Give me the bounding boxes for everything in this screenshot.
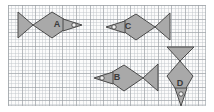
fish-d-label: D xyxy=(177,78,184,88)
fish-d-nose xyxy=(175,88,187,106)
fish-shapes-layer: A C B D xyxy=(0,0,214,112)
fish-b-label: B xyxy=(114,72,121,82)
fish-shape-a[interactable]: A xyxy=(18,12,82,38)
fish-shape-b[interactable]: B xyxy=(94,64,158,91)
fish-a-eye-icon xyxy=(72,23,76,27)
fish-shape-d[interactable]: D xyxy=(167,47,194,106)
fish-a-tail xyxy=(18,12,33,38)
fish-c-eye-icon xyxy=(112,25,116,29)
fish-c-label: C xyxy=(125,21,132,31)
fish-d-eye-icon xyxy=(179,92,183,96)
fish-b-tail xyxy=(143,64,158,91)
fish-c-tail xyxy=(155,13,170,40)
fish-shape-c[interactable]: C xyxy=(106,13,170,40)
fish-b-eye-icon xyxy=(100,76,104,80)
worksheet-figure: A C B D xyxy=(0,0,214,112)
fish-a-label: A xyxy=(54,19,61,29)
fish-d-tail xyxy=(167,47,194,61)
